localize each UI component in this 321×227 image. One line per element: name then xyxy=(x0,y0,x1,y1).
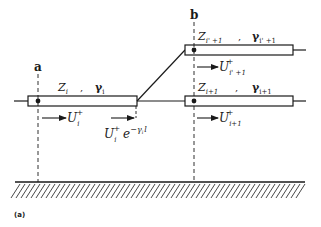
node-a-label: a xyxy=(34,60,42,74)
transmission-line-diagram: a b Zi , γi Ui+ Ui+e−γil Zi' +1 , γi' +1… xyxy=(0,0,321,227)
line-i-prime-plus-1-parameters: Zi' +1 , γi' +1 xyxy=(197,30,276,45)
wire-junction-upper xyxy=(137,50,185,101)
ground-plane xyxy=(11,182,305,198)
line-i-plus-1-impedance: Zi+1 xyxy=(197,81,218,96)
wave-u-i-plus: Ui+ xyxy=(67,108,83,128)
line-i-prime-plus-1-gamma: γi' +1 xyxy=(252,30,276,45)
node-b-label: b xyxy=(190,8,198,22)
wave-attenuated-label: Ui+e−γil xyxy=(104,124,147,144)
node-b-upper-dot xyxy=(192,48,197,53)
figure-caption: (a) xyxy=(14,211,25,219)
node-b-lower-dot xyxy=(192,99,197,104)
line-i-gamma: γi xyxy=(95,81,105,96)
line-i-plus-1-gamma: γi+1 xyxy=(252,81,272,96)
line-i-prime-plus-1-separator: , xyxy=(238,31,241,42)
line-i-impedance: Zi xyxy=(57,81,68,96)
line-i-prime-plus-1-box xyxy=(185,45,293,55)
node-a-dot xyxy=(36,99,41,104)
line-i-prime-plus-1-impedance: Zi' +1 xyxy=(197,30,222,45)
line-i-plus-1-parameters: Zi+1 , γi+1 xyxy=(197,81,272,96)
ground-hatching xyxy=(11,184,305,198)
line-i-parameters: Zi , γi xyxy=(57,81,105,96)
wave-u-i-plus-1: Ui+1+ xyxy=(219,108,242,128)
line-i-plus-1-box xyxy=(185,96,293,106)
wave-u-i-prime-plus-1: Ui' +1+ xyxy=(219,57,246,77)
line-i-separator: , xyxy=(80,82,83,93)
line-i-box xyxy=(28,96,137,106)
line-i-plus-1-separator: , xyxy=(235,82,238,93)
